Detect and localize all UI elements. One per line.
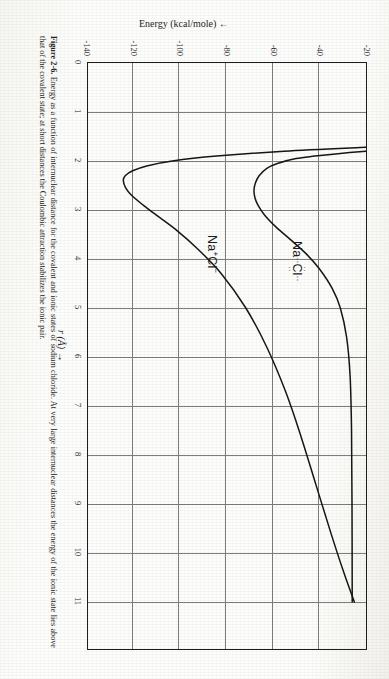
- curve-label-covalent-dots-top: ··: [302, 266, 309, 273]
- xtick-5: 5: [73, 305, 83, 309]
- xtick-10: 10: [73, 548, 83, 557]
- ytick-minus100: -100: [175, 28, 185, 56]
- curve-label-ionic-cl: Cl: [205, 256, 219, 268]
- xtick-9: 9: [73, 501, 83, 505]
- xtick-7: 7: [73, 403, 83, 407]
- figure-potential-energy-curves: Na····Cl···· Na+Cl− 0 1 2 3 4 5 6 7 8 9 …: [0, 0, 389, 679]
- ytick-minus40: -40: [315, 32, 325, 56]
- curves-svg: [86, 63, 366, 651]
- figure-caption-number: Figure 2-6.: [49, 36, 58, 74]
- figure-caption: Figure 2-6. Energy as a function of inte…: [37, 36, 59, 648]
- curve-label-covalent-lewis: ··Cl··: [290, 263, 304, 275]
- ytick-minus80: -80: [222, 32, 232, 56]
- figure-caption-text: Energy as a function of internuclear dis…: [38, 36, 58, 648]
- xtick-0: 0: [73, 60, 83, 64]
- xtick-1: 1: [73, 109, 83, 113]
- curve-label-ionic-na: Na: [205, 235, 219, 251]
- xtick-6: 6: [73, 354, 83, 358]
- xtick-11: 11: [73, 597, 83, 605]
- curve-label-covalent-dots-bottom: ··: [286, 266, 293, 273]
- ytick-minus140: -140: [82, 28, 92, 56]
- ytick-minus120: -120: [129, 28, 139, 56]
- xtick-8: 8: [73, 452, 83, 456]
- y-axis-title: Energy (kcal/mole) ←: [139, 18, 229, 29]
- curve-label-ionic-minus: −: [211, 268, 220, 273]
- y-axis-title-text: Energy (kcal/mole) ←: [139, 18, 229, 29]
- xtick-3: 3: [73, 207, 83, 211]
- ytick-minus20: -20: [362, 32, 372, 56]
- curve-covalent-path: [254, 151, 366, 602]
- xtick-4: 4: [73, 256, 83, 260]
- curve-label-covalent-na: Na: [290, 241, 304, 257]
- xtick-2: 2: [73, 158, 83, 162]
- ytick-minus60: -60: [269, 32, 279, 56]
- rotated-figure-wrapper: Na····Cl···· Na+Cl− 0 1 2 3 4 5 6 7 8 9 …: [0, 0, 389, 679]
- curve-label-covalent-dots-right: ··: [293, 276, 303, 282]
- curve-label-ionic: Na+Cl−: [205, 235, 220, 273]
- curve-label-covalent: Na····Cl····: [290, 241, 304, 282]
- plot-area: Na····Cl···· Na+Cl−: [87, 62, 367, 650]
- curve-ionic-path: [123, 147, 366, 602]
